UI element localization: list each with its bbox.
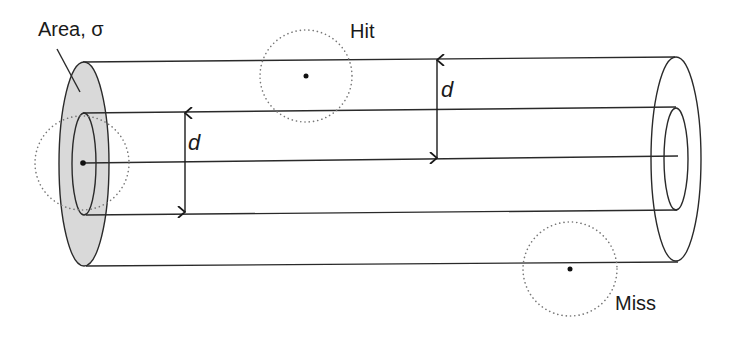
area-label: Area, σ [38,18,104,40]
miss-label: Miss [615,292,656,314]
hit-dot [304,74,309,79]
distance-label-left: d [188,130,201,155]
distance-label-right: d [441,77,454,102]
cylinder-diagram: Area, σ Hit Miss d d [0,0,737,344]
miss-dot [568,267,573,272]
center-axis [84,156,678,163]
axis-origin-dot [80,160,86,166]
hit-label: Hit [350,20,375,42]
right-end-caps [651,57,701,261]
inner-cylinder [83,107,677,215]
